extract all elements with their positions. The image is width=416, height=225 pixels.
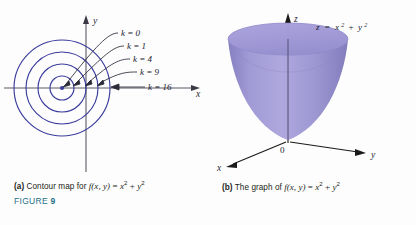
y-axis	[83, 15, 89, 172]
leader-arrow-k0	[63, 81, 70, 87]
figure-number-value: 9	[51, 196, 56, 206]
caption-a-equals: =	[112, 181, 117, 191]
paraboloid-panel: z z = x 2 + y 2	[208, 0, 416, 175]
caption-a-x-exp: 2	[124, 180, 127, 186]
contour-map-panel: y x	[0, 0, 208, 175]
caption-a-plus: +	[130, 181, 135, 191]
caption-b-marker: (b)	[222, 183, 233, 192]
caption-b-equals: =	[308, 182, 313, 192]
caption-a-text: Contour map for	[27, 182, 87, 191]
x-axis-label: x	[195, 89, 201, 99]
figure-page: y x	[0, 0, 416, 225]
figure-number: FIGURE 9	[14, 196, 56, 206]
x-axis	[226, 142, 286, 168]
caption-b-y-exp: 2	[337, 181, 340, 187]
contour-label-k9: k = 9	[140, 67, 160, 77]
caption-a: (a) Contour map for f(x, y) = x2 + y2	[14, 180, 145, 191]
caption-a-marker: (a)	[14, 182, 24, 191]
y-axis-label: y	[370, 150, 376, 160]
contour-label-k4: k = 4	[133, 54, 153, 64]
x-axis-label: x	[216, 163, 222, 173]
leader-line-k9	[100, 72, 137, 83]
contour-label-k1: k = 1	[127, 41, 146, 51]
y-axis-label: y	[92, 16, 98, 26]
caption-b-text: The graph of	[235, 183, 282, 192]
leader-arrow-k16	[111, 84, 119, 90]
caption-b-plus: +	[325, 182, 330, 192]
y-axis	[290, 142, 366, 156]
caption-b: (b) The graph of f(x, y) = x2 + y2	[222, 181, 340, 192]
figure-number-prefix: FIGURE	[14, 196, 48, 206]
leader-arrow-k1	[73, 80, 80, 86]
origin-label: 0	[280, 145, 285, 155]
leader-line-k0	[66, 33, 118, 84]
paraboloid-svg: z z = x 2 + y 2	[208, 0, 416, 175]
caption-b-args: (x, y)	[287, 182, 306, 192]
z-axis-label: z	[293, 14, 298, 24]
contour-label-k16: k = 16	[148, 82, 172, 92]
caption-a-y-exp: 2	[141, 180, 144, 186]
contour-label-k0: k = 0	[121, 28, 141, 38]
contour-map-svg: y x	[0, 0, 208, 175]
caption-a-args: (x, y)	[91, 181, 110, 191]
caption-b-x-exp: 2	[319, 181, 322, 187]
